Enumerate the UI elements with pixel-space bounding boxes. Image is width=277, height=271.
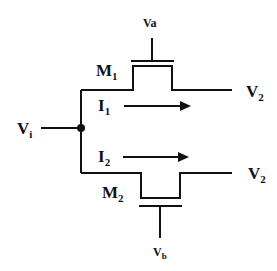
v2-top-label: V2 <box>246 82 264 103</box>
i2-label: I2 <box>98 147 111 168</box>
i1-label: I1 <box>98 96 110 117</box>
va-label: Va <box>143 16 157 30</box>
i2-arrowhead-icon <box>178 152 189 162</box>
vb-label: Vb <box>153 245 167 261</box>
i1-arrowhead-icon <box>180 101 191 111</box>
m2-label: M2 <box>102 183 124 204</box>
m1-label: M1 <box>96 61 118 82</box>
vi-label: Vi <box>17 119 32 140</box>
v2-bottom-label: V2 <box>248 164 266 185</box>
circuit-diagram: Vi Va M1 I1 V2 I2 V2 M2 Vb <box>0 0 277 271</box>
